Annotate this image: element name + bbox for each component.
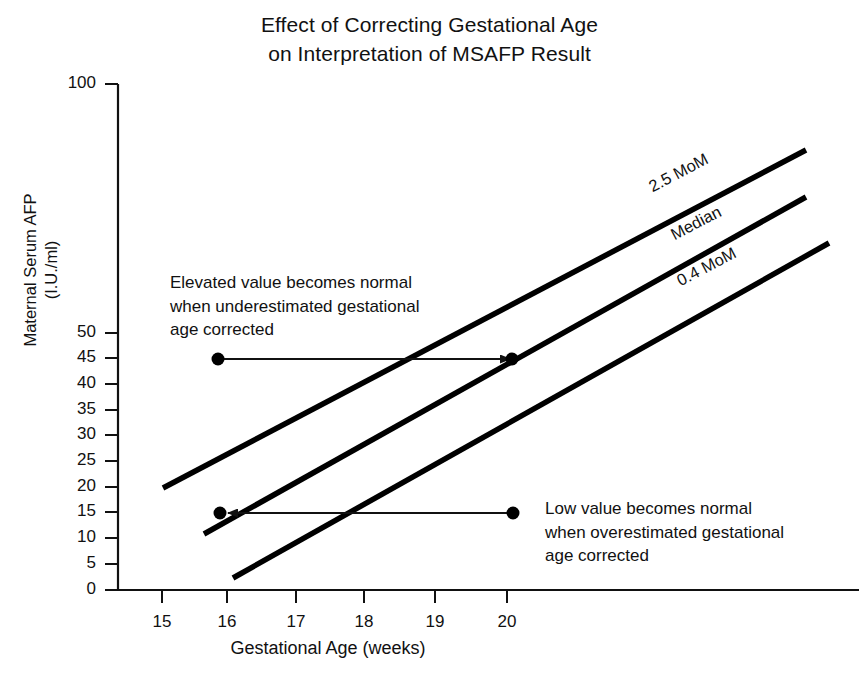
annotation-line: Elevated value becomes normal [170,271,420,295]
low-annotation: Low value becomes normalwhen overestimat… [545,497,784,568]
data-point-elevated-uncorrected [212,353,225,366]
annotation-line: when overestimated gestational [545,521,784,545]
y-tick-label: 15 [50,501,96,521]
x-tick-label: 18 [344,612,384,632]
annotation-line: age corrected [545,544,784,568]
y-tick-label: 10 [50,527,96,547]
x-tick-label: 20 [487,612,527,632]
x-tick-label: 15 [142,612,182,632]
y-tick-label: 45 [50,347,96,367]
y-tick-label: 20 [50,476,96,496]
chart-plot-area [0,0,859,681]
chart-figure: Effect of Correcting Gestational Age on … [0,0,859,681]
y-tick-label: 5 [50,553,96,573]
annotation-line: Low value becomes normal [545,497,784,521]
data-point-elevated-corrected [506,353,519,366]
annotation-line: when underestimated gestational [170,295,420,319]
elevated-annotation: Elevated value becomes normalwhen undere… [170,271,420,342]
x-axis-ticks [162,590,507,603]
data-point-low-corrected [214,507,227,520]
y-tick-label: 30 [50,424,96,444]
y-tick-label: 25 [50,450,96,470]
x-tick-label: 16 [207,612,247,632]
y-tick-label: 0 [50,579,96,599]
x-tick-label: 19 [415,612,455,632]
data-point-low-uncorrected [507,507,520,520]
y-tick-label: 35 [50,399,96,419]
y-tick-label: 100 [50,73,96,93]
y-axis-ticks [105,84,118,590]
series-line-median [204,197,806,534]
y-tick-label: 50 [50,322,96,342]
annotation-line: age corrected [170,318,420,342]
x-tick-label: 17 [276,612,316,632]
y-tick-label: 40 [50,373,96,393]
